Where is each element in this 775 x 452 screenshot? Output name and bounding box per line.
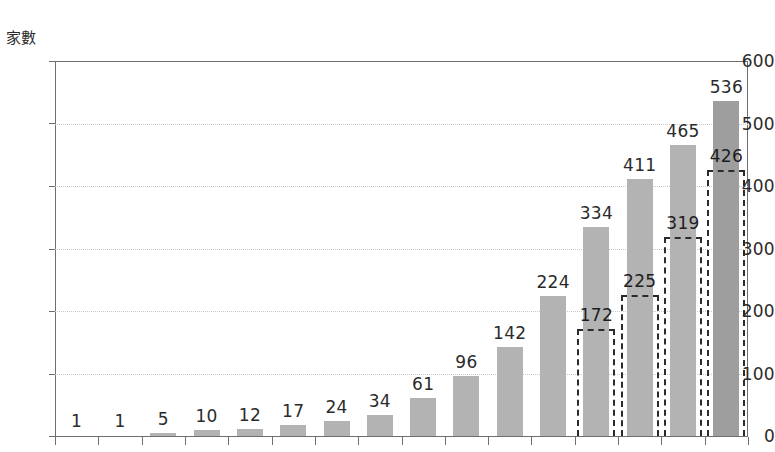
x-tick-mark-14 [661, 437, 662, 445]
bar-solid-5 [280, 425, 306, 436]
value-label-dashed-14: 319 [666, 213, 699, 233]
value-label-dashed-15: 426 [710, 146, 743, 166]
bar-solid-4 [237, 429, 263, 437]
x-tick-mark-7 [358, 437, 359, 445]
bar-solid-11 [540, 296, 566, 436]
x-tick-mark-6 [315, 437, 316, 445]
x-tick-mark-10 [488, 437, 489, 445]
value-label-solid-11: 224 [536, 272, 569, 292]
x-tick-mark-5 [272, 437, 273, 445]
value-label-dashed-12: 172 [580, 305, 613, 325]
value-label-solid-14: 465 [666, 121, 699, 141]
bar-solid-9 [453, 376, 479, 436]
bar-solid-8 [410, 398, 436, 436]
value-label-solid-1: 1 [114, 411, 125, 431]
bar-solid-3 [194, 430, 220, 436]
bar-dashed-13 [621, 295, 659, 436]
bar-solid-7 [367, 415, 393, 436]
x-tick-mark-1 [98, 437, 99, 445]
x-tick-mark-8 [402, 437, 403, 445]
x-tick-mark-2 [142, 437, 143, 445]
value-label-solid-0: 1 [71, 411, 82, 431]
value-label-solid-13: 411 [623, 155, 656, 175]
value-label-solid-5: 17 [282, 401, 304, 421]
bar-solid-10 [497, 347, 523, 436]
bars-layer [55, 61, 748, 436]
bar-chart: 家數 6005004003002001000 11510121724346196… [0, 0, 775, 452]
value-label-solid-9: 96 [455, 352, 477, 372]
x-tick-mark-4 [228, 437, 229, 445]
x-tick-mark-15 [705, 437, 706, 445]
x-tick-mark-0 [55, 437, 56, 445]
value-label-dashed-13: 225 [623, 271, 656, 291]
x-tick-mark-12 [575, 437, 576, 445]
value-label-solid-8: 61 [412, 374, 434, 394]
y-axis-unit-label: 家數 [6, 26, 36, 47]
x-tick-mark-13 [618, 437, 619, 445]
value-label-solid-15: 536 [710, 77, 743, 97]
value-label-solid-6: 24 [325, 397, 347, 417]
value-label-solid-2: 5 [158, 409, 169, 429]
value-label-solid-4: 12 [239, 405, 261, 425]
x-tick-mark-16 [748, 437, 749, 445]
value-label-solid-10: 142 [493, 323, 526, 343]
value-label-solid-12: 334 [580, 203, 613, 223]
x-tick-mark-3 [185, 437, 186, 445]
bar-dashed-12 [577, 329, 615, 437]
bar-dashed-14 [664, 237, 702, 436]
bar-dashed-15 [707, 170, 745, 436]
bar-solid-6 [324, 421, 350, 436]
x-tick-mark-11 [531, 437, 532, 445]
value-label-solid-3: 10 [195, 406, 217, 426]
value-label-solid-7: 34 [369, 391, 391, 411]
x-tick-mark-9 [445, 437, 446, 445]
bar-solid-2 [150, 433, 176, 436]
